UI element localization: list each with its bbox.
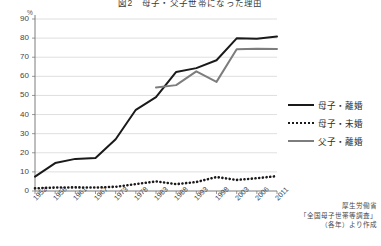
series-line xyxy=(156,49,277,88)
chart-figure: 図2 母子・父子世帯になった理由 % 0102030405060708090 1… xyxy=(0,0,381,246)
legend-item: 母子・未婚 xyxy=(288,114,380,132)
legend-swatch-icon xyxy=(288,136,314,146)
source-note: 厚生労働省 「全国母子世帯等調査」 （各年）より作成 xyxy=(267,201,377,230)
legend-swatch-line xyxy=(288,140,314,142)
chart-legend: 母子・離婚母子・未婚父子・離婚 xyxy=(288,96,380,150)
series-line xyxy=(35,176,277,188)
series-line xyxy=(35,37,277,177)
source-line-2: 「全国母子世帯等調査」 xyxy=(267,211,377,221)
legend-swatch-line xyxy=(288,122,314,124)
legend-swatch-icon xyxy=(288,100,314,110)
legend-item: 父子・離婚 xyxy=(288,132,380,150)
legend-label: 母子・離婚 xyxy=(318,99,363,111)
legend-swatch-line xyxy=(288,104,314,106)
legend-label: 母子・未婚 xyxy=(318,117,363,129)
source-line-3: （各年）より作成 xyxy=(267,220,377,230)
legend-swatch-icon xyxy=(288,118,314,128)
legend-item: 母子・離婚 xyxy=(288,96,380,114)
source-line-1: 厚生労働省 xyxy=(267,201,377,211)
legend-label: 父子・離婚 xyxy=(318,135,363,147)
